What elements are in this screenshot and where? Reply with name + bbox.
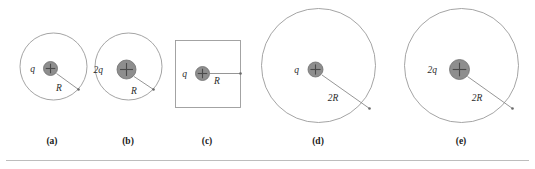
charge-label-b: 2q xyxy=(94,65,104,75)
radius-arrowhead-e xyxy=(511,107,514,110)
radius-label-e: 2R xyxy=(472,93,483,103)
charge-label-a: q xyxy=(30,64,35,74)
panel-d: q2R(d) xyxy=(262,9,376,148)
radius-label-d: 2R xyxy=(328,93,339,103)
panel-a: qR(a) xyxy=(20,33,87,147)
panel-caption-a: (a) xyxy=(46,136,57,147)
panel-c: qR(c) xyxy=(176,41,242,148)
panel-caption-c: (c) xyxy=(202,136,213,147)
radius-arrowhead-a xyxy=(77,88,80,91)
panel-caption-b: (b) xyxy=(122,136,134,147)
charge-label-d: q xyxy=(294,65,299,75)
radius-arrowhead-d xyxy=(368,107,371,110)
radius-line-b xyxy=(134,77,154,90)
panel-caption-e: (e) xyxy=(456,136,467,147)
physics-figure-container: qR(a)2qR(b)qR(c)q2R(d)2q2R(e) xyxy=(0,0,535,169)
radius-label-b: R xyxy=(130,86,137,96)
radius-arrowhead-c xyxy=(239,72,242,75)
radius-arrowhead-b xyxy=(152,88,155,91)
panel-e: 2q2R(e) xyxy=(405,9,519,148)
radius-label-c: R xyxy=(213,76,220,86)
panel-caption-d: (d) xyxy=(312,136,324,147)
charge-label-e: 2q xyxy=(428,65,438,75)
panel-b: 2qR(b) xyxy=(94,33,163,147)
radius-label-a: R xyxy=(55,83,62,93)
radius-line-d xyxy=(322,75,370,109)
charge-label-c: q xyxy=(182,69,187,79)
physics-figure-svg: qR(a)2qR(b)qR(c)q2R(d)2q2R(e) xyxy=(0,0,535,169)
